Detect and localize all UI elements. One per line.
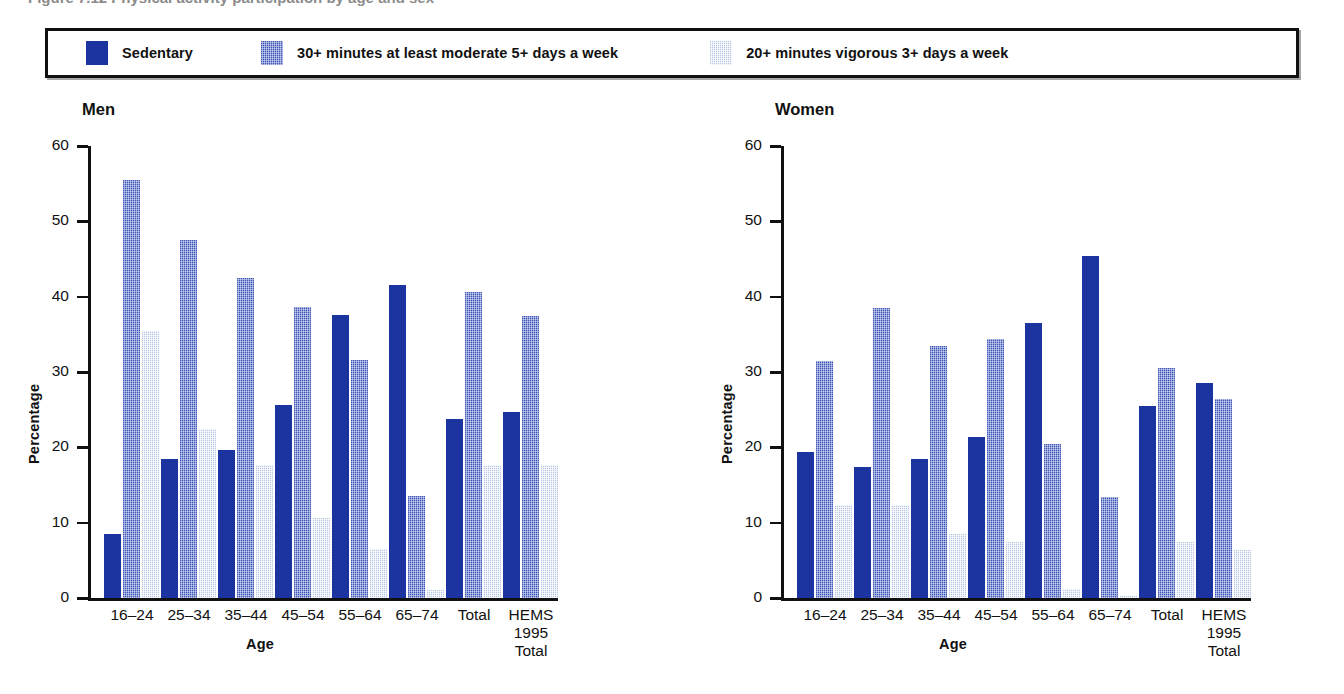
- y-axis-tick-label: 0: [60, 588, 69, 606]
- x-axis-category-label: HEMS1995Total: [471, 606, 591, 660]
- bar-moderate: [1215, 399, 1232, 598]
- bar-moderate: [1044, 444, 1061, 598]
- bar-sedentary: [161, 459, 178, 598]
- chart-legend: Sedentary 30+ minutes at least moderate …: [45, 28, 1299, 78]
- bar-group: 55–64: [332, 146, 387, 598]
- x-axis-label-women: Age: [939, 636, 967, 652]
- bar-moderate: [1158, 368, 1175, 598]
- y-axis-tick: 10: [770, 522, 781, 525]
- bar-moderate: [816, 361, 833, 598]
- panel-title-men: Men: [82, 100, 115, 119]
- legend-label-sedentary: Sedentary: [122, 45, 193, 61]
- x-axis-category-label: HEMS1995Total: [1164, 606, 1284, 660]
- bar-vigorous: [484, 465, 501, 598]
- y-axis-tick: 50: [770, 220, 781, 223]
- bar-sedentary: [104, 534, 121, 598]
- bar-sedentary: [1139, 406, 1156, 598]
- bar-sedentary: [503, 412, 520, 598]
- bar-vigorous: [1120, 596, 1137, 598]
- bar-vigorous: [313, 518, 330, 598]
- bar-vigorous: [427, 590, 444, 598]
- bar-moderate: [294, 307, 311, 598]
- bar-group: 65–74: [389, 146, 444, 598]
- bar-vigorous: [370, 549, 387, 598]
- bar-sedentary: [332, 315, 349, 598]
- bar-moderate: [351, 360, 368, 598]
- bar-group: 25–34: [854, 146, 909, 598]
- bar-moderate: [123, 180, 140, 598]
- y-axis-label-men: Percentage: [26, 384, 42, 464]
- y-axis-tick-label: 40: [52, 287, 69, 305]
- legend-item-vigorous: 20+ minutes vigorous 3+ days a week: [710, 41, 1008, 65]
- bar-vigorous: [892, 505, 909, 598]
- x-axis-line-men: [88, 598, 558, 601]
- bar-group: 35–44: [218, 146, 273, 598]
- bar-moderate: [1101, 497, 1118, 598]
- plot-area-women: 010203040506016–2425–3435–4445–5455–6465…: [781, 146, 1251, 598]
- bar-group: 35–44: [911, 146, 966, 598]
- y-axis-line-women: [781, 146, 784, 601]
- bar-sedentary: [1025, 323, 1042, 598]
- bar-sedentary: [275, 405, 292, 598]
- bar-vigorous: [199, 429, 216, 599]
- y-axis-line-men: [88, 146, 91, 601]
- bar-moderate: [873, 308, 890, 598]
- bar-sedentary: [968, 437, 985, 598]
- bar-moderate: [237, 278, 254, 598]
- y-axis-tick-label: 30: [745, 362, 762, 380]
- legend-item-moderate: 30+ minutes at least moderate 5+ days a …: [261, 41, 618, 65]
- bar-vigorous: [1177, 542, 1194, 598]
- legend-swatch-moderate-icon: [261, 41, 283, 65]
- plot-area-men: 010203040506016–2425–3435–4445–5455–6465…: [88, 146, 558, 598]
- bar-vigorous: [1006, 542, 1023, 599]
- bar-vigorous: [256, 465, 273, 598]
- legend-label-vigorous: 20+ minutes vigorous 3+ days a week: [746, 45, 1008, 61]
- y-axis-tick: 60: [770, 145, 781, 148]
- bar-sedentary: [389, 285, 406, 598]
- x-axis-label-men: Age: [246, 636, 274, 652]
- bar-moderate: [522, 316, 539, 599]
- panel-title-women: Women: [775, 100, 834, 119]
- bar-sedentary: [854, 467, 871, 598]
- bar-group: Total: [1139, 146, 1194, 598]
- legend-swatch-sedentary-icon: [86, 41, 108, 65]
- bar-group: HEMS1995Total: [503, 146, 558, 598]
- bar-sedentary: [911, 459, 928, 598]
- bar-vigorous: [1234, 550, 1251, 598]
- y-axis-tick-label: 20: [52, 437, 69, 455]
- bar-group: 16–24: [797, 146, 852, 598]
- bar-sedentary: [797, 452, 814, 598]
- bar-vigorous: [142, 331, 159, 598]
- y-axis-tick: 20: [770, 446, 781, 449]
- y-axis-tick-label: 60: [52, 136, 69, 154]
- bar-vigorous: [835, 505, 852, 598]
- y-axis-tick-label: 0: [753, 588, 762, 606]
- chart-panel-women: Women Percentage 010203040506016–2425–34…: [655, 96, 1295, 694]
- y-axis-tick: 40: [770, 296, 781, 299]
- bar-moderate: [180, 240, 197, 598]
- y-axis-tick-label: 40: [745, 287, 762, 305]
- y-axis-tick-label: 30: [52, 362, 69, 380]
- y-axis-tick-label: 10: [745, 513, 762, 531]
- figure-caption: Figure 7.12 Physical activity participat…: [28, 0, 434, 6]
- y-axis-tick-label: 50: [52, 211, 69, 229]
- bar-group: 45–54: [968, 146, 1023, 598]
- bar-group: HEMS1995Total: [1196, 146, 1251, 598]
- bar-moderate: [408, 496, 425, 598]
- x-axis-line-women: [781, 598, 1251, 601]
- bar-vigorous: [541, 465, 558, 598]
- legend-item-sedentary: Sedentary: [86, 41, 193, 65]
- figure-caption-strip: Figure 7.12 Physical activity participat…: [0, 0, 1344, 16]
- bar-moderate: [987, 339, 1004, 598]
- bar-group: 45–54: [275, 146, 330, 598]
- bar-sedentary: [1196, 383, 1213, 598]
- y-axis-tick: 20: [77, 446, 88, 449]
- y-axis-tick: 30: [77, 371, 88, 374]
- bar-group: 55–64: [1025, 146, 1080, 598]
- bar-group: 25–34: [161, 146, 216, 598]
- bar-vigorous: [949, 534, 966, 598]
- bar-sedentary: [218, 450, 235, 598]
- bar-group: Total: [446, 146, 501, 598]
- legend-swatch-vigorous-icon: [710, 41, 732, 65]
- legend-label-moderate: 30+ minutes at least moderate 5+ days a …: [297, 45, 618, 61]
